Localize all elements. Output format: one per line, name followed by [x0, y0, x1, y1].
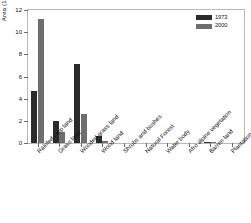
legend-swatch-icon	[196, 15, 212, 20]
legend-entry: 2000	[196, 23, 227, 30]
x-axis-tick-label: Rainfed crop land	[36, 117, 73, 154]
x-axis-labels: Rainfed crop landGrass landWooded grass …	[0, 0, 251, 223]
bar-chart-figure: Area (1000 km2) 024681012 Rainfed crop l…	[0, 0, 251, 223]
x-axis-tick-label: Plantation Forest	[230, 118, 251, 154]
legend-entry-label: 2000	[215, 23, 227, 29]
x-axis-tick-label: Shrubs and bushes	[122, 113, 163, 154]
x-axis-tick-label: Wooded grass land	[79, 114, 120, 155]
legend-entry-label: 1973	[215, 15, 227, 21]
legend-swatch-icon	[196, 24, 212, 29]
legend-entry: 1973	[196, 14, 227, 21]
legend: 1973 2000	[196, 14, 227, 31]
